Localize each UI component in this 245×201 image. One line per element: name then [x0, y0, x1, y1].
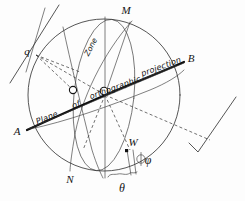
- node-point-left: [69, 86, 76, 93]
- label-n: N: [65, 173, 74, 185]
- label-plane-word-projection: projection: [139, 55, 183, 78]
- dashed-ray-q-upper: [36, 55, 80, 72]
- label-plane-word-plane: Plane: [35, 109, 60, 126]
- label-theta: θ: [119, 181, 125, 195]
- label-a: A: [13, 125, 21, 137]
- dashed-ray-center-to-w: [105, 95, 130, 150]
- dashed-ray-q-mid: [36, 55, 72, 89]
- label-zone: Zone: [82, 36, 100, 58]
- label-w: W: [128, 136, 138, 148]
- projection-plane-lower-edge: [30, 70, 184, 129]
- external-bent-line: [189, 97, 236, 152]
- theta-brace: [108, 172, 137, 177]
- w-point-marker: [125, 149, 128, 152]
- figure-canvas: M N A B q W φ θ Zone Plane of orthograph…: [0, 0, 245, 201]
- label-q: q: [24, 45, 30, 57]
- dashed-ray-center-lower-right: [105, 95, 210, 140]
- secondary-zone-arc: [63, 27, 103, 178]
- w-drop-line: [127, 150, 131, 175]
- w-drop-line-b: [133, 150, 136, 174]
- label-phi: φ: [145, 153, 152, 167]
- orthographic-projection-diagram: M N A B q W φ θ Zone Plane of orthograph…: [0, 0, 245, 201]
- label-m: M: [120, 4, 131, 16]
- label-b: B: [188, 52, 195, 64]
